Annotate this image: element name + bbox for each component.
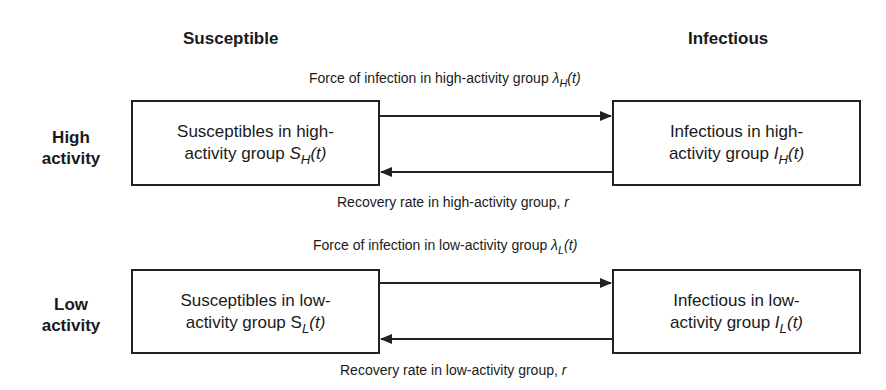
symbol: S [291,313,302,332]
lambda-symbol: λ [551,237,558,253]
label-text: Recovery rate in low-activity group, [340,362,562,378]
argument: (t) [564,237,577,253]
box-text: activity group [186,313,291,332]
argument: (t) [787,313,803,332]
argument: (t) [310,144,326,163]
rate-symbol: r [562,362,567,378]
label-text: Recovery rate in high-activity group, [337,194,564,210]
argument: (t) [788,144,804,163]
row-header-line2: activity [21,315,121,336]
box-line1: Infectious in high- [669,121,804,143]
box-text: activity group [670,313,775,332]
infection-label-high: Force of infection in high-activity grou… [309,70,581,86]
row-header-line1: Low [21,294,121,315]
box-line1: Susceptibles in low- [180,290,330,312]
compartment-infectious-high: Infectious in high- activity group IH(t) [612,100,861,186]
subscript: H [779,152,789,167]
compartment-susceptible-low: Susceptibles in low- activity group SL(t… [131,269,380,354]
compartment-susceptible-high: Susceptibles in high- activity group SH(… [131,100,380,186]
box-line2: activity group IH(t) [669,143,804,165]
row-header-low-activity: Low activity [21,294,121,336]
row-header-high-activity: High activity [21,127,121,169]
rate-symbol: r [564,194,569,210]
subscript: L [780,320,787,335]
recovery-label-low: Recovery rate in low-activity group, r [340,362,566,378]
subscript: H [301,152,311,167]
row-header-line1: High [21,127,121,148]
box-text: activity group [185,144,290,163]
box-line1: Infectious in low- [670,290,803,312]
infection-label-low: Force of infection in low-activity group… [313,237,577,253]
row-header-line2: activity [21,148,121,169]
box-text: activity group [669,144,774,163]
box-line2: activity group IL(t) [670,312,803,334]
box-line1: Susceptibles in high- [177,121,334,143]
label-text: Force of infection in low-activity group [313,237,551,253]
label-text: Force of infection in high-activity grou… [309,70,553,86]
argument: (t) [309,313,325,332]
compartment-infectious-low: Infectious in low- activity group IL(t) [612,269,861,354]
box-line2: activity group SL(t) [180,312,330,334]
argument: (t) [567,70,580,86]
symbol: S [289,144,300,163]
recovery-label-high: Recovery rate in high-activity group, r [337,194,569,210]
box-line2: activity group SH(t) [177,143,334,165]
